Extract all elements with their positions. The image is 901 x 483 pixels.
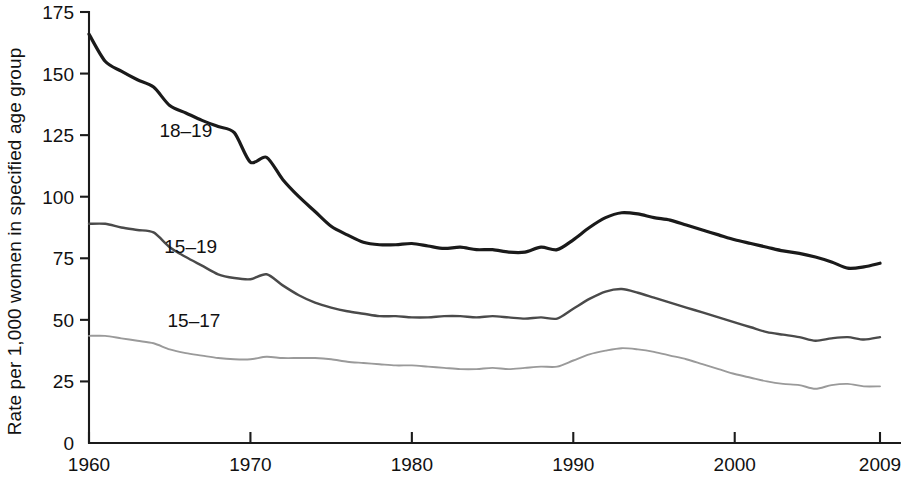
x-tick-label: 2009 [859,454,901,475]
series-label-18-19: 18–19 [159,120,212,141]
chart-container: Rate per 1,000 women in specified age gr… [0,0,901,483]
x-tick-label: 1970 [229,454,271,475]
x-tick-label: 2000 [714,454,756,475]
y-tick-label: 150 [42,64,74,85]
series-line-15-17 [89,336,880,389]
x-tick-label: 1960 [68,454,110,475]
x-tick-label: 1990 [552,454,594,475]
y-tick-label: 175 [42,2,74,23]
y-tick-label: 50 [53,310,74,331]
y-tick-label: 100 [42,187,74,208]
series-label-15-17: 15–17 [168,310,221,331]
y-tick-label: 75 [53,248,74,269]
line-chart-plot: 0255075100125150175196019701980199020002… [0,0,901,483]
y-tick-label: 125 [42,125,74,146]
y-tick-label: 25 [53,371,74,392]
axis-frame [89,12,901,443]
x-tick-label: 1980 [391,454,433,475]
y-tick-label: 0 [63,433,74,454]
series-label-15-19: 15–19 [164,236,217,257]
series-line-18-19 [89,34,880,268]
